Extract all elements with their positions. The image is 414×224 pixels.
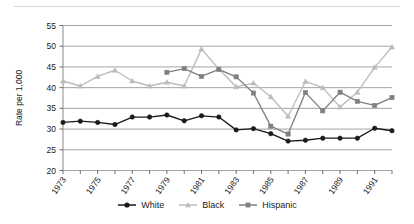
y-axis-tick-label: 25 bbox=[47, 145, 57, 155]
data-point-marker bbox=[95, 120, 99, 124]
x-axis-tick-label: 1973 bbox=[49, 175, 68, 196]
legend-label: Hispanic bbox=[262, 200, 297, 210]
data-point-marker bbox=[165, 70, 169, 74]
data-point-marker bbox=[182, 119, 186, 123]
data-point-marker bbox=[112, 68, 117, 73]
data-point-marker bbox=[269, 131, 273, 135]
line-chart-figure: 2025303540455055Rate per 1,0001973197519… bbox=[0, 0, 414, 224]
data-point-marker bbox=[61, 120, 65, 124]
data-point-marker bbox=[234, 75, 238, 79]
legend-label: White bbox=[141, 200, 164, 210]
y-axis-tick-label: 45 bbox=[47, 62, 57, 72]
data-point-marker bbox=[234, 128, 238, 132]
data-point-marker bbox=[251, 80, 256, 85]
data-point-marker bbox=[303, 79, 308, 84]
data-point-marker bbox=[165, 113, 169, 117]
data-point-marker bbox=[78, 119, 82, 123]
data-point-marker bbox=[372, 126, 376, 130]
data-point-marker bbox=[113, 122, 117, 126]
y-axis-title: Rate per 1,000 bbox=[14, 70, 24, 127]
legend-item-black[interactable]: Black bbox=[178, 200, 224, 210]
data-point-marker bbox=[373, 103, 377, 107]
data-point-marker bbox=[164, 80, 169, 85]
chart-legend: WhiteBlackHispanic bbox=[0, 200, 414, 210]
data-point-marker bbox=[321, 136, 325, 140]
data-point-marker bbox=[355, 99, 359, 103]
line-square-marker-icon bbox=[238, 200, 258, 210]
x-axis-tick-label: 1991 bbox=[361, 175, 380, 196]
data-point-marker bbox=[338, 136, 342, 140]
data-point-marker bbox=[338, 90, 342, 94]
data-point-marker bbox=[199, 74, 203, 78]
data-point-marker bbox=[321, 109, 325, 113]
data-point-marker bbox=[286, 139, 290, 143]
data-point-marker bbox=[251, 126, 255, 130]
data-point-marker bbox=[390, 95, 394, 99]
series-line bbox=[63, 115, 392, 141]
data-point-marker bbox=[199, 114, 203, 118]
series-hispanic bbox=[165, 66, 394, 136]
line-triangle-marker-icon bbox=[178, 200, 198, 210]
series-black bbox=[60, 44, 394, 118]
data-point-marker bbox=[303, 91, 307, 95]
y-axis-tick-label: 30 bbox=[47, 124, 57, 134]
series-line bbox=[63, 47, 392, 116]
x-axis-tick-label: 1975 bbox=[84, 175, 103, 196]
y-axis-tick-label: 40 bbox=[47, 83, 57, 93]
x-axis-tick-label: 1983 bbox=[222, 175, 241, 196]
legend-item-white[interactable]: White bbox=[117, 200, 164, 210]
y-axis-tick-label: 55 bbox=[47, 21, 57, 31]
y-axis-tick-label: 35 bbox=[47, 103, 57, 113]
data-point-marker bbox=[286, 132, 290, 136]
data-point-marker bbox=[182, 66, 186, 70]
plot-area: 2025303540455055Rate per 1,0001973197519… bbox=[0, 0, 414, 200]
line-circle-marker-icon bbox=[117, 200, 137, 210]
data-point-marker bbox=[199, 47, 204, 52]
data-point-marker bbox=[130, 115, 134, 119]
x-axis-tick-label: 1979 bbox=[153, 175, 172, 196]
data-point-marker bbox=[389, 44, 394, 49]
legend-item-hispanic[interactable]: Hispanic bbox=[238, 200, 297, 210]
data-point-marker bbox=[217, 67, 221, 71]
data-point-marker bbox=[303, 138, 307, 142]
x-axis-tick-label: 1981 bbox=[188, 175, 207, 196]
data-point-marker bbox=[60, 78, 65, 83]
data-point-marker bbox=[390, 129, 394, 133]
y-axis-tick-label: 50 bbox=[47, 41, 57, 51]
data-point-marker bbox=[147, 115, 151, 119]
x-axis-tick-label: 1985 bbox=[257, 175, 276, 196]
data-point-marker bbox=[355, 136, 359, 140]
x-axis-tick-label: 1989 bbox=[326, 175, 345, 196]
data-point-marker bbox=[251, 91, 255, 95]
x-axis-tick-label: 1987 bbox=[292, 175, 311, 196]
legend-label: Black bbox=[202, 200, 224, 210]
series-white bbox=[61, 113, 394, 143]
x-axis-tick-label: 1977 bbox=[118, 175, 137, 196]
data-point-marker bbox=[217, 115, 221, 119]
y-axis-tick-label: 20 bbox=[47, 166, 57, 176]
data-point-marker bbox=[269, 124, 273, 128]
